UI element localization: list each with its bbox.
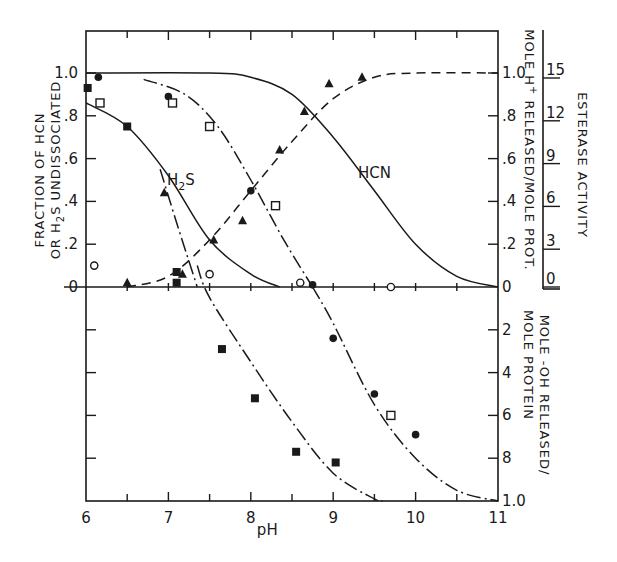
open-square-marker: [96, 99, 104, 107]
filled-square-marker: [292, 448, 300, 456]
open-circle-marker: [297, 279, 304, 286]
filled-triangle-marker: [160, 188, 169, 197]
y-tick-label-left: .6: [64, 150, 78, 168]
curve-oh-released-h2s-: [197, 266, 382, 502]
open-square-marker: [272, 202, 280, 210]
filled-triangle-marker: [123, 278, 132, 287]
x-tick-label: 9: [328, 509, 338, 527]
open-square-marker: [206, 123, 214, 131]
axis-ticks: [86, 31, 560, 501]
filled-square-marker: [123, 123, 131, 131]
x-tick-label: 6: [81, 509, 91, 527]
filled-circle-marker: [371, 390, 379, 398]
filled-triangle-marker: [325, 79, 334, 88]
y-tick-label-right: .2: [502, 235, 516, 253]
esterase-tick-label: 3: [546, 232, 556, 250]
y-tick-label-lower: 6: [502, 406, 512, 424]
filled-triangle-marker: [209, 235, 218, 244]
hcn-curve-label: HCN: [358, 164, 391, 182]
x-tick-label: 10: [406, 509, 425, 527]
open-square-marker: [387, 411, 395, 419]
right-axis-title-lower-line2: MOLE PROTEIN: [521, 310, 536, 420]
curve-hcn-undissociated: [86, 73, 498, 287]
y-tick-label-right: .4: [502, 192, 516, 210]
plot-frame: [64, 30, 560, 501]
esterase-tick-label: 9: [546, 147, 556, 165]
y-tick-label-right: .8: [502, 107, 516, 125]
chart: 678910110.2.4.6.81.00.2.4.6.81.003691215…: [0, 0, 617, 562]
esterase-tick-label: 0: [546, 270, 556, 288]
open-circle-marker: [387, 283, 394, 290]
esterase-tick-label: 12: [546, 104, 565, 122]
x-axis-title: pH: [257, 521, 278, 539]
left-axis-title-line1: FRACTION OF HCN: [32, 112, 47, 247]
y-tick-label-left: .2: [64, 235, 78, 253]
y-tick-label-lower: 8: [502, 449, 512, 467]
y-tick-label-right: 0: [502, 278, 512, 296]
open-circle-marker: [91, 262, 98, 269]
y-tick-label-left: .4: [64, 192, 78, 210]
y-tick-label-lower: 4: [502, 364, 512, 382]
x-tick-label: 11: [488, 509, 507, 527]
filled-circle-marker: [95, 73, 103, 81]
h2s-curve-label: H2S: [167, 171, 195, 193]
esterase-tick-label: 15: [546, 61, 565, 79]
open-square-marker: [169, 99, 177, 107]
filled-triangle-marker: [358, 72, 367, 81]
y-tick-label-left: 0: [68, 278, 78, 296]
y-tick-label-lower: 2: [502, 321, 512, 339]
filled-square-marker: [218, 345, 226, 353]
curve-h2s-undissociated: [86, 103, 280, 287]
right-axis-title-lower-line1: MOLE -OH RELEASED/: [537, 315, 552, 476]
filled-square-marker: [173, 279, 181, 287]
x-tick-label: 7: [164, 509, 174, 527]
filled-square-marker: [84, 84, 92, 92]
esterase-tick-label: 6: [546, 189, 556, 207]
esterase-axis-title: ESTERASE ACTIVITY: [575, 92, 590, 238]
curve-oh-released-hcn-: [313, 287, 498, 501]
filled-circle-marker: [329, 335, 337, 343]
filled-circle-marker: [247, 187, 255, 195]
filled-square-marker: [332, 458, 340, 466]
filled-circle-marker: [412, 431, 420, 439]
filled-triangle-marker: [275, 145, 284, 154]
open-circle-marker: [206, 271, 213, 278]
filled-square-marker: [251, 394, 259, 402]
right-axis-title-upper: MOLE H+ RELEASED/MOLE PROT.: [522, 29, 539, 270]
data-markers: [84, 72, 420, 466]
y-tick-label-left: .8: [64, 107, 78, 125]
filled-triangle-marker: [238, 216, 247, 225]
filled-circle-marker: [309, 281, 317, 289]
x-tick-label: 8: [246, 509, 256, 527]
y-tick-label-lower: 1.0: [502, 492, 526, 510]
y-tick-label-right: .6: [502, 150, 516, 168]
y-tick-label-left: 1.0: [54, 64, 78, 82]
